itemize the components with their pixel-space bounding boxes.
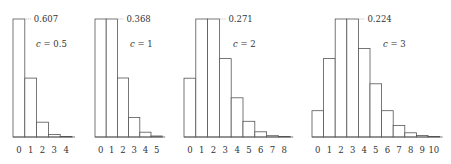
bar — [335, 19, 347, 137]
x-tick-label: 0 — [98, 145, 103, 155]
x-tick-label: 1 — [109, 145, 114, 155]
bar — [382, 111, 394, 137]
parameter-label: c = 3 — [383, 39, 406, 49]
x-tick-label: 8 — [282, 145, 287, 155]
x-tick-label: 0 — [315, 145, 320, 155]
bar — [117, 78, 128, 137]
x-tick-label: 10 — [428, 145, 439, 155]
bar — [196, 19, 208, 137]
bar — [106, 19, 117, 137]
x-tick-label: 1 — [327, 145, 332, 155]
bar — [312, 111, 324, 137]
peak-value-label: 0.271 — [228, 14, 252, 24]
x-tick-label: 6 — [258, 145, 263, 155]
x-tick-label: 2 — [120, 145, 125, 155]
chart-panel-3: 0123456780.271c = 2 — [184, 14, 293, 155]
parameter-label: c = 1 — [130, 39, 153, 49]
chart-panel-1: 012340.607c = 0.5 — [13, 14, 75, 155]
x-tick-label: 0 — [187, 145, 192, 155]
bar — [140, 132, 151, 137]
x-tick-label: 3 — [223, 145, 228, 155]
parameter-value: 2 — [250, 39, 255, 49]
x-tick-label: 5 — [246, 145, 251, 155]
x-tick-label: 2 — [211, 145, 216, 155]
x-tick-label: 4 — [63, 145, 68, 155]
x-tick-label: 5 — [373, 145, 378, 155]
x-tick-label: 4 — [361, 145, 366, 155]
x-tick-label: 1 — [28, 145, 33, 155]
bar — [347, 19, 359, 137]
parameter-equals: = — [41, 39, 54, 49]
chart-panel-4: 0123456789100.224c = 3 — [312, 14, 443, 155]
peak-value-label: 0.224 — [367, 14, 391, 24]
bar — [13, 19, 25, 137]
x-tick-label: 4 — [234, 145, 239, 155]
bar — [184, 78, 196, 137]
x-tick-label: 5 — [154, 145, 159, 155]
parameter-label: c = 0.5 — [36, 39, 67, 49]
x-tick-label: 2 — [338, 145, 343, 155]
x-tick-label: 9 — [419, 145, 424, 155]
bar — [324, 59, 336, 138]
bar — [231, 98, 243, 137]
x-tick-label: 0 — [16, 145, 21, 155]
parameter-value: 0.5 — [53, 39, 67, 49]
bar — [393, 125, 405, 137]
bar — [358, 49, 370, 138]
chart-panel-2: 0123450.368c = 1 — [95, 14, 165, 155]
parameter-equals: = — [135, 39, 148, 49]
x-tick-label: 6 — [385, 145, 390, 155]
poisson-distribution-panels: 012340.607c = 0.50123450.368c = 10123456… — [0, 0, 451, 164]
bar — [37, 122, 49, 137]
x-tick-label: 4 — [143, 145, 148, 155]
parameter-equals: = — [388, 39, 401, 49]
bar — [25, 78, 37, 137]
bar — [208, 19, 220, 137]
parameter-equals: = — [238, 39, 251, 49]
peak-value-label: 0.607 — [34, 14, 58, 24]
bar — [370, 84, 382, 137]
parameter-label: c = 2 — [233, 39, 256, 49]
bar — [405, 133, 417, 137]
x-tick-label: 2 — [40, 145, 45, 155]
x-tick-label: 7 — [396, 145, 401, 155]
bar — [243, 121, 255, 137]
x-tick-label: 3 — [52, 145, 57, 155]
x-tick-label: 1 — [199, 145, 204, 155]
x-tick-label: 3 — [350, 145, 355, 155]
bar — [129, 117, 140, 137]
bar — [95, 19, 106, 137]
x-tick-label: 7 — [270, 145, 275, 155]
bar — [255, 132, 267, 137]
peak-value-label: 0.368 — [126, 14, 150, 24]
x-tick-label: 8 — [408, 145, 413, 155]
parameter-value: 1 — [147, 39, 152, 49]
parameter-value: 3 — [400, 39, 405, 49]
x-tick-label: 3 — [131, 145, 136, 155]
bar — [219, 59, 231, 137]
